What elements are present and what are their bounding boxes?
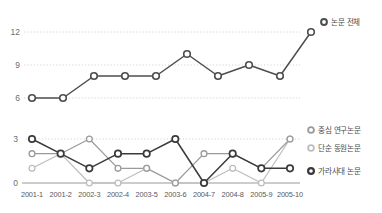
top-legend-label-0: 논문 전체: [331, 17, 360, 27]
bottom-xtick-label-6: 2004-7: [193, 190, 215, 199]
bottom-legend-label-0: 중심 연구논문: [318, 125, 361, 135]
top-data-point-7[interactable]: [246, 62, 253, 69]
bottom-data-point-s0-2[interactable]: [86, 136, 92, 142]
bottom-data-point-s0-9[interactable]: [287, 136, 293, 142]
top-ytick-label-12: 12: [11, 27, 21, 37]
bottom-xtick-label-9: 2005-10: [277, 190, 303, 199]
bottom-xtick-label-1: 2001-2: [50, 190, 72, 199]
top-ytick-label-6: 6: [15, 93, 20, 103]
bottom-data-point-s1-8[interactable]: [258, 180, 264, 186]
bottom-xtick-label-3: 2002-4: [107, 190, 129, 199]
top-chart-svg: 6912논문 전체: [0, 0, 382, 112]
top-data-point-0[interactable]: [29, 95, 36, 102]
bottom-data-point-s2-0[interactable]: [29, 136, 35, 142]
top-data-point-8[interactable]: [277, 73, 284, 80]
bottom-data-point-s0-3[interactable]: [115, 165, 121, 171]
bottom-data-point-s0-0[interactable]: [29, 151, 35, 157]
top-ytick-label-9: 9: [15, 60, 20, 70]
bottom-legend-marker-2: [308, 168, 314, 174]
bottom-legend-marker-1: [308, 145, 314, 151]
bottom-data-point-s2-8[interactable]: [258, 165, 264, 171]
bottom-xtick-label-8: 2005-9: [250, 190, 272, 199]
top-data-point-1[interactable]: [60, 95, 67, 102]
bottom-ytick-label-3: 3: [13, 134, 18, 144]
bottom-data-point-s1-0[interactable]: [29, 165, 35, 171]
bottom-data-point-s2-7[interactable]: [229, 150, 235, 156]
bottom-data-point-s1-7[interactable]: [230, 165, 236, 171]
bottom-chart-svg: 302001-12001-22002-32002-42003-52003-620…: [0, 112, 382, 213]
top-data-point-4[interactable]: [153, 73, 160, 80]
top-data-point-3[interactable]: [122, 73, 129, 80]
bottom-data-point-s2-2[interactable]: [86, 165, 92, 171]
bottom-data-point-s0-4[interactable]: [144, 165, 150, 171]
bottom-data-point-s0-6[interactable]: [201, 151, 207, 157]
bottom-data-point-s2-1[interactable]: [57, 150, 63, 156]
bottom-data-point-s2-9[interactable]: [287, 165, 293, 171]
top-data-point-9[interactable]: [308, 29, 315, 36]
bottom-data-point-s2-6[interactable]: [201, 180, 207, 186]
bottom-xtick-label-7: 2004-8: [222, 190, 244, 199]
bottom-data-point-s1-2[interactable]: [86, 180, 92, 186]
bottom-xtick-label-2: 2002-3: [78, 190, 100, 199]
dual-line-chart-figure: 6912논문 전체 302001-12001-22002-32002-42003…: [0, 0, 382, 213]
top-legend-marker-0: [321, 19, 327, 25]
bottom-xtick-label-0: 2001-1: [21, 190, 43, 199]
bottom-data-point-s1-3[interactable]: [115, 180, 121, 186]
bottom-legend-marker-0: [308, 127, 314, 133]
bottom-data-point-s2-5[interactable]: [172, 136, 178, 142]
bottom-chart-panel: 302001-12001-22002-32002-42003-52003-620…: [0, 112, 382, 213]
top-data-point-6[interactable]: [215, 73, 222, 80]
top-chart-panel: 6912논문 전체: [0, 0, 382, 112]
bottom-xtick-label-5: 2003-6: [164, 190, 186, 199]
bottom-legend-label-2: 가라사대 논문: [318, 167, 361, 176]
bottom-xtick-label-4: 2003-5: [136, 190, 158, 199]
bottom-ytick-label-0: 0: [13, 178, 18, 188]
bottom-data-point-s2-4[interactable]: [143, 150, 149, 156]
bottom-legend-label-1: 단순 동원논문: [318, 143, 361, 153]
bottom-data-point-s0-5[interactable]: [172, 180, 178, 186]
top-data-point-2[interactable]: [91, 73, 98, 80]
top-data-point-5[interactable]: [184, 51, 191, 58]
bottom-data-point-s2-3[interactable]: [115, 150, 121, 156]
top-series-line-0: [32, 32, 311, 98]
bottom-series-line-2: [32, 139, 290, 183]
